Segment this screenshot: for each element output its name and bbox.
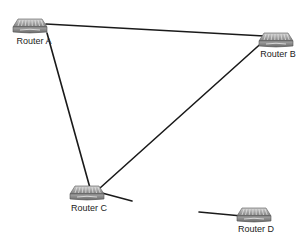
router-icon [70, 186, 104, 200]
link-b-c [100, 39, 266, 188]
link-c-stub [102, 193, 132, 201]
router-d-label: Router D [226, 224, 286, 234]
router-c-label: Router C [59, 203, 119, 213]
router-b-label: Router B [248, 49, 307, 59]
router-icon [259, 33, 293, 47]
router-a-label: Router A [4, 36, 64, 46]
link-a-c [47, 33, 90, 188]
link-d-stub [199, 212, 242, 216]
router-d[interactable] [237, 208, 271, 222]
router-a[interactable] [13, 19, 47, 33]
router-icon [13, 19, 47, 33]
router-b[interactable] [259, 33, 293, 47]
router-c[interactable] [70, 186, 104, 200]
link-a-b [46, 24, 264, 36]
router-icon [237, 208, 271, 222]
